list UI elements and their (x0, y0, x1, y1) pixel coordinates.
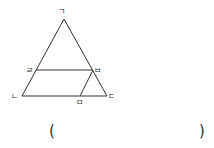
triangle-diagram: ㄱ ㄹ ㅂ ㄴ ㅁ ㄷ ( ) (0, 0, 214, 148)
label-digeut: ㄷ (108, 92, 115, 101)
answer-close-paren: ) (199, 122, 205, 140)
label-rieul: ㄹ (26, 66, 33, 75)
label-mieum: ㅁ (76, 98, 83, 107)
label-giyeok: ㄱ (58, 7, 65, 16)
segment-bieup-mieum (80, 70, 93, 96)
segment-giyeok-nieun (22, 19, 64, 96)
answer-open-paren: ( (49, 122, 55, 140)
label-bieup: ㅂ (94, 66, 101, 75)
label-nieun: ㄴ (11, 92, 18, 101)
